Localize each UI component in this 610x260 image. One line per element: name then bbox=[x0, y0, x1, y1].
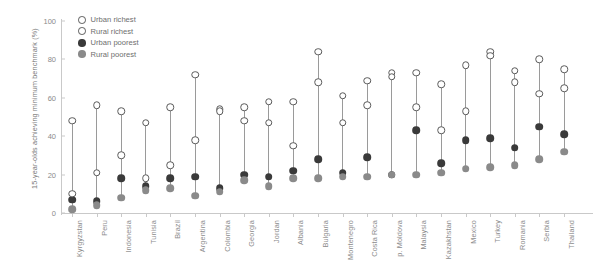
data-point bbox=[363, 77, 371, 85]
data-point bbox=[191, 71, 199, 79]
y-tick-mark bbox=[61, 97, 65, 98]
data-point bbox=[462, 61, 470, 69]
data-point bbox=[363, 173, 371, 181]
data-point bbox=[462, 136, 470, 144]
data-point bbox=[462, 165, 470, 173]
x-axis-label-p-moldova: p. Moldova bbox=[395, 220, 404, 257]
x-axis-label-turkey: Turkey bbox=[493, 220, 502, 243]
x-axis-label-romania: Romania bbox=[518, 220, 527, 250]
data-point bbox=[511, 67, 519, 75]
data-point bbox=[339, 173, 347, 181]
data-point bbox=[93, 202, 101, 210]
x-axis-label-montenegro: Montenegro bbox=[346, 220, 355, 260]
y-tick-label: 20 bbox=[48, 170, 56, 179]
data-point bbox=[93, 102, 101, 110]
range-stem bbox=[391, 73, 392, 175]
y-axis-ticks: 020406080100 bbox=[34, 0, 56, 213]
x-tick-mark bbox=[515, 213, 516, 217]
data-point bbox=[167, 175, 175, 183]
x-axis-label-costa-rica: Costa Rica bbox=[370, 220, 379, 257]
data-point bbox=[560, 84, 568, 92]
x-tick-mark bbox=[343, 213, 344, 217]
range-stem bbox=[367, 81, 368, 177]
data-point bbox=[536, 90, 544, 98]
data-point bbox=[290, 142, 298, 150]
x-tick-mark bbox=[97, 213, 98, 217]
x-tick-mark bbox=[146, 213, 147, 217]
data-point bbox=[265, 182, 273, 190]
data-point bbox=[413, 127, 421, 135]
data-point bbox=[388, 171, 396, 179]
x-tick-mark bbox=[318, 213, 319, 217]
y-tick-label: 60 bbox=[48, 93, 56, 102]
data-point bbox=[167, 184, 175, 192]
data-point bbox=[437, 81, 445, 89]
data-point bbox=[240, 177, 248, 185]
range-stem bbox=[465, 65, 466, 169]
data-point bbox=[437, 127, 445, 135]
legend-label: Rural poorest bbox=[91, 50, 137, 59]
y-tick-mark bbox=[61, 21, 65, 22]
data-point bbox=[339, 92, 347, 100]
x-tick-mark bbox=[244, 213, 245, 217]
data-point bbox=[265, 98, 273, 106]
range-stem bbox=[416, 73, 417, 175]
data-point bbox=[560, 148, 568, 156]
x-axis-label-argentina: Argentina bbox=[198, 220, 207, 252]
legend-label: Rural richest bbox=[91, 27, 134, 36]
data-point bbox=[486, 52, 494, 60]
y-tick-mark bbox=[61, 59, 65, 60]
legend-item: Urban richest bbox=[78, 14, 139, 26]
y-tick-mark bbox=[61, 136, 65, 137]
x-axis-label-colombia: Colombia bbox=[223, 220, 232, 252]
y-tick-mark bbox=[61, 213, 65, 214]
y-tick-mark bbox=[61, 174, 65, 175]
data-point bbox=[413, 171, 421, 179]
data-point bbox=[68, 205, 76, 213]
data-point bbox=[216, 107, 224, 115]
data-point bbox=[216, 188, 224, 196]
x-tick-mark bbox=[564, 213, 565, 217]
data-point bbox=[511, 79, 519, 87]
data-point bbox=[486, 134, 494, 142]
data-point bbox=[290, 98, 298, 106]
data-point bbox=[314, 175, 322, 183]
x-axis-label-bulgaria: Bulgaria bbox=[321, 220, 330, 248]
data-point bbox=[142, 186, 150, 194]
data-point bbox=[93, 169, 101, 177]
x-axis-label-peru: Peru bbox=[100, 220, 109, 236]
legend-item: Rural richest bbox=[78, 26, 139, 38]
x-tick-mark bbox=[220, 213, 221, 217]
data-point bbox=[560, 65, 568, 73]
x-tick-mark bbox=[269, 213, 270, 217]
data-point bbox=[290, 175, 298, 183]
x-axis-line bbox=[61, 213, 593, 214]
data-point bbox=[560, 130, 568, 138]
data-point bbox=[314, 79, 322, 87]
range-stem bbox=[342, 96, 343, 177]
x-tick-mark bbox=[121, 213, 122, 217]
data-point bbox=[437, 159, 445, 167]
data-point bbox=[167, 161, 175, 169]
x-tick-mark bbox=[72, 213, 73, 217]
data-point bbox=[462, 107, 470, 115]
legend-item: Rural poorest bbox=[78, 49, 139, 61]
x-axis-label-georgia: Georgia bbox=[247, 220, 256, 247]
data-point bbox=[191, 192, 199, 200]
x-axis-label-brazil: Brazil bbox=[173, 220, 182, 239]
x-axis-label-kyrgyzstan: Kyrgyzstan bbox=[75, 220, 84, 257]
data-point bbox=[142, 119, 150, 127]
data-point bbox=[511, 144, 519, 152]
x-tick-mark bbox=[293, 213, 294, 217]
range-stem bbox=[539, 59, 540, 159]
legend-item: Urban poorest bbox=[78, 37, 139, 49]
legend-marker-icon bbox=[78, 16, 86, 24]
data-point bbox=[265, 119, 273, 127]
legend-label: Urban richest bbox=[91, 15, 136, 24]
data-point bbox=[511, 161, 519, 169]
data-point bbox=[117, 194, 125, 202]
data-point bbox=[240, 117, 248, 125]
data-point bbox=[339, 119, 347, 127]
data-point bbox=[486, 163, 494, 171]
